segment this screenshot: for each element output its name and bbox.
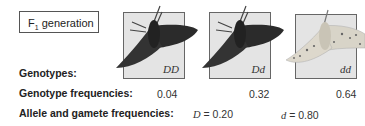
- allele-value-d: = 0.80: [286, 109, 318, 121]
- allele-value-D: = 0.20: [201, 108, 233, 120]
- genotype-frequencies-row-label: Genotype frequencies:: [19, 87, 133, 99]
- light-moth-icon: [282, 4, 365, 74]
- dark-moth-icon: [110, 2, 200, 74]
- allele-frequencies-row-label: Allele and gamete frequencies:: [19, 107, 174, 119]
- frequency-Dd: 0.32: [249, 88, 269, 100]
- genotypes-row-label: Genotypes:: [19, 67, 77, 79]
- dark-moth-icon: [196, 2, 286, 74]
- generation-f: F: [28, 17, 35, 29]
- allele-frequency-D: D = 0.20: [193, 108, 233, 120]
- generation-text: generation: [39, 17, 94, 29]
- frequency-DD: 0.04: [157, 88, 177, 100]
- allele-frequency-d: d = 0.80: [281, 109, 319, 121]
- frequency-dd: 0.64: [336, 88, 356, 100]
- generation-label-box: F1 generation: [19, 11, 99, 33]
- allele-symbol-D: D: [193, 109, 201, 120]
